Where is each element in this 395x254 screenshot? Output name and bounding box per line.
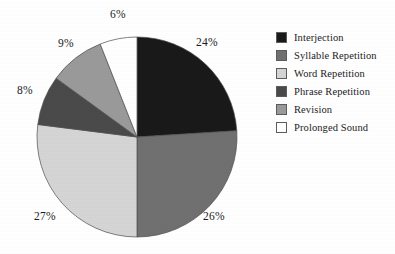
pie-slice-value-label: 8% [17, 84, 33, 96]
legend-item-label: Syllable Repetition [294, 50, 377, 61]
legend-color-swatch [276, 50, 287, 61]
legend-color-swatch [276, 68, 287, 79]
legend-item[interactable]: Interjection [276, 28, 394, 46]
legend-item-label: Prolonged Sound [294, 122, 368, 133]
pie-slice[interactable] [137, 37, 237, 137]
legend-item[interactable]: Syllable Repetition [276, 46, 394, 64]
legend-color-swatch [276, 122, 287, 133]
legend-item-label: Word Repetition [294, 68, 365, 79]
pie-slice-value-label: 6% [110, 8, 126, 20]
legend-item-label: Interjection [294, 32, 344, 43]
legend-item[interactable]: Phrase Repetition [276, 82, 394, 100]
pie-slice-value-label: 9% [58, 37, 74, 49]
pie-slice-value-label: 26% [203, 210, 225, 222]
legend-item[interactable]: Revision [276, 100, 394, 118]
legend-item[interactable]: Word Repetition [276, 64, 394, 82]
legend-color-swatch [276, 32, 287, 43]
pie-chart-plot-area: 24%26%27%8%9%6% [0, 0, 250, 254]
legend-item[interactable]: Prolonged Sound [276, 118, 394, 136]
legend-item-label: Phrase Repetition [294, 86, 370, 97]
pie-chart-figure: 24%26%27%8%9%6% InterjectionSyllable Rep… [0, 0, 395, 254]
legend-color-swatch [276, 104, 287, 115]
legend-item-label: Revision [294, 104, 332, 115]
legend-color-swatch [276, 86, 287, 97]
pie-slice-value-label: 27% [34, 210, 56, 222]
pie-slice-value-label: 24% [196, 36, 218, 48]
chart-legend: InterjectionSyllable RepetitionWord Repe… [276, 28, 394, 136]
